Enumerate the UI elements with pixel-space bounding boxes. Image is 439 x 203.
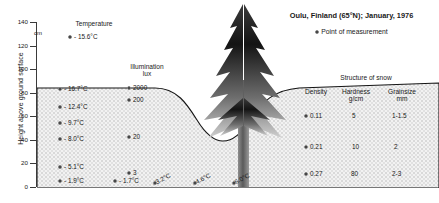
snow-hardness-unit: g/cm: [336, 95, 376, 102]
filled-circle-icon: [127, 98, 131, 102]
snow-grainsize-label: Grainsize: [380, 88, 424, 95]
temperature-point: - 8.0°C: [58, 135, 84, 142]
snow-grainsize-value: 2: [394, 143, 398, 150]
air-temperature-value: - 15.6°C: [68, 33, 98, 40]
ground-temperature-point: - 1.7°C: [113, 177, 139, 184]
filled-circle-icon: [58, 179, 62, 183]
temperature-point: - 5.1°C: [58, 163, 84, 170]
illumination-point: 20: [127, 133, 140, 140]
illumination-point: 2000: [127, 84, 147, 91]
snow-structure-header: Structure of snow: [300, 74, 432, 81]
filled-circle-icon: [58, 137, 62, 141]
snow-hardness-value: 5: [352, 112, 356, 119]
filled-circle-icon: [58, 87, 62, 91]
temperature-point: - 1.9°C: [58, 177, 84, 184]
legend-label: Point of measurement: [321, 28, 388, 35]
snow-density-label: Density: [298, 88, 334, 95]
y-tick-label: 120: [2, 43, 28, 49]
y-tick-label: 20: [2, 160, 28, 166]
y-axis-line: [36, 22, 37, 187]
snow-hardness-label: Hardness: [336, 88, 376, 95]
y-tick-label: 80: [2, 90, 28, 96]
illumination-header-label: Illumination: [117, 63, 177, 70]
y-axis-title: Height above ground surface: [17, 39, 24, 159]
snow-grainsize-unit: mm: [380, 95, 424, 102]
filled-circle-icon: [113, 179, 117, 183]
snow-density-value: 0.11: [310, 112, 322, 119]
filled-circle-icon: [58, 121, 62, 125]
snow-density-value: 0.27: [310, 170, 322, 177]
y-tick-label: 40: [2, 137, 28, 143]
temperature-point: - 12.4°C: [58, 103, 88, 110]
y-tick-label: 100: [2, 66, 28, 72]
legend-point-of-measurement: Point of measurement: [264, 28, 439, 35]
snow-hardness-value: 80: [351, 170, 358, 177]
y-axis-unit: cm: [34, 30, 42, 36]
snow-density-header: Density: [298, 88, 334, 95]
ground-baseline: [37, 187, 437, 188]
temperature-point: - 16.7°C: [58, 85, 88, 92]
filled-circle-icon: [58, 105, 62, 109]
filled-circle-icon: [193, 181, 197, 185]
figure-snow-profile-diagram: 0 20 40 60 80 100 120 140 cm Height abov…: [0, 0, 439, 203]
figure-title: Oulu, Finland (65°N); January, 1976: [264, 11, 439, 20]
filled-circle-icon: [315, 30, 319, 34]
snow-grainsize-value: 1-1.5: [392, 112, 407, 119]
filled-circle-icon: [304, 145, 308, 149]
filled-circle-icon: [127, 171, 131, 175]
filled-circle-icon: [153, 181, 157, 185]
temperature-point: - 9.7°C: [58, 119, 84, 126]
filled-circle-icon: [127, 135, 131, 139]
illumination-point: 200: [127, 96, 144, 103]
snow-density-value: 0.21: [310, 143, 322, 150]
filled-circle-icon: [127, 86, 131, 90]
filled-circle-icon: [304, 172, 308, 176]
illumination-column-header: Illumination lux: [117, 63, 177, 77]
snow-hardness-value: 10: [352, 143, 359, 150]
filled-circle-icon: [232, 181, 236, 185]
temperature-column-header: Temperature: [62, 20, 126, 27]
y-tick-label: 60: [2, 113, 28, 119]
snow-grainsize-header: Grainsize mm: [380, 88, 424, 102]
filled-circle-icon: [304, 114, 308, 118]
y-tick-label: 140: [2, 19, 28, 25]
filled-circle-icon: [58, 165, 62, 169]
snow-hardness-header: Hardness g/cm: [336, 88, 376, 102]
filled-circle-icon: [68, 35, 72, 39]
y-tick-label: 0: [2, 184, 28, 190]
snow-grainsize-value: 2-3: [392, 170, 401, 177]
illumination-point: 3: [127, 169, 137, 176]
illumination-header-unit: lux: [117, 70, 177, 77]
